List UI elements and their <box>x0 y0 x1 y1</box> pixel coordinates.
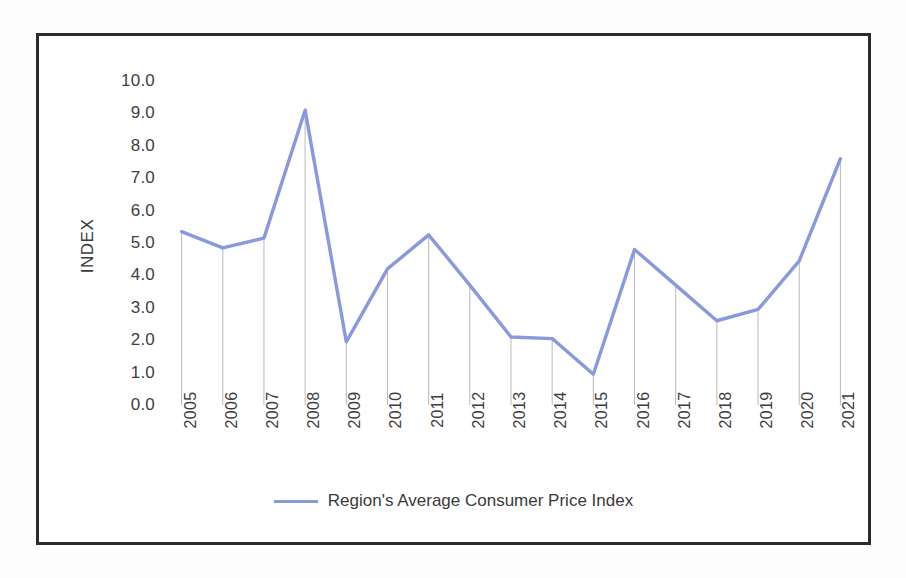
x-axis-tick-label: 2013 <box>511 392 529 429</box>
x-axis-tick-label: 2007 <box>264 392 282 429</box>
y-axis-tick-label: 6.0 <box>131 201 155 221</box>
series-line-region-average-consumer-price-index <box>182 110 841 374</box>
chart-frame: INDEX 10.09.08.07.06.05.04.03.02.01.00.0… <box>36 33 871 545</box>
y-axis-tick-label: 10.0 <box>121 71 155 91</box>
y-axis-tick-label: 4.0 <box>131 265 155 285</box>
y-axis-tick-label: 9.0 <box>131 103 155 123</box>
y-axis-tick-label: 2.0 <box>131 330 155 350</box>
x-axis-tick-label: 2014 <box>552 392 570 429</box>
x-axis-tick-label: 2016 <box>635 392 653 429</box>
x-axis-tick-label: 2011 <box>429 392 447 428</box>
x-axis-tick-label: 2021 <box>840 392 858 429</box>
x-axis-tick-label: 2006 <box>223 392 241 429</box>
x-axis-tick-label: 2012 <box>470 392 488 429</box>
y-axis-tick-label: 7.0 <box>131 168 155 188</box>
x-axis-tick-label: 2019 <box>758 392 776 429</box>
legend-label: Region's Average Consumer Price Index <box>328 491 633 511</box>
chart-legend: Region's Average Consumer Price Index <box>39 491 868 511</box>
x-axis-tick-label: 2008 <box>305 392 323 429</box>
y-axis-title: INDEX <box>78 219 98 273</box>
screenshot-root: INDEX 10.09.08.07.06.05.04.03.02.01.00.0… <box>0 0 906 578</box>
legend-swatch-icon <box>274 500 318 503</box>
x-axis-tick-label: 2005 <box>182 392 200 429</box>
y-axis-tick-label: 5.0 <box>131 233 155 253</box>
y-axis-tick-label: 3.0 <box>131 298 155 318</box>
droplines-group <box>182 110 841 405</box>
x-axis-tick-label: 2018 <box>717 392 735 429</box>
y-axis-tick-label: 1.0 <box>131 363 155 383</box>
y-axis-tick-label: 8.0 <box>131 136 155 156</box>
x-axis-tick-label: 2010 <box>387 392 405 429</box>
x-axis-tick-label: 2017 <box>676 392 694 429</box>
x-axis-tick-label: 2009 <box>346 392 364 429</box>
y-axis-tick-label: 0.0 <box>131 395 155 415</box>
x-axis-tick-labels: 2005200620072008200920102011201220132014… <box>161 410 861 490</box>
x-axis-tick-label: 2015 <box>593 392 611 429</box>
x-axis-tick-label: 2020 <box>799 392 817 429</box>
y-axis-tick-labels: 10.09.08.07.06.05.04.03.02.01.00.0 <box>97 81 155 405</box>
